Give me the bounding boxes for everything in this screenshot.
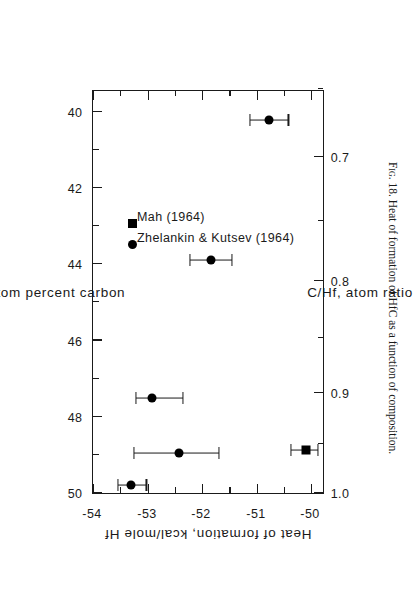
x-tick-label-44: 44 [68, 258, 83, 272]
circle-marker-icon [147, 393, 156, 402]
error-bar-cap [133, 447, 134, 459]
legend-label: Mah (1964) [137, 210, 205, 224]
chart-canvas: Atom percent carbon C/Hf, atom ratio Hea… [48, 52, 368, 552]
legend-label: Zhelankin & Kutsev (1964) [137, 231, 294, 245]
figure-number: Fig. 18. [387, 162, 399, 197]
data-point-zhelankin-kutsev [147, 393, 157, 403]
x-tick-label-46: 46 [68, 335, 83, 349]
error-bar-cap [135, 392, 136, 404]
y-tick-label--53: -53 [137, 507, 156, 521]
axis-tick-bot-minor [318, 88, 324, 89]
error-bar [136, 397, 183, 398]
data-point-mah [301, 445, 311, 455]
x-tick-label-40: 40 [68, 106, 83, 120]
x-tick-label-42: 42 [68, 182, 83, 196]
error-bar-cap [290, 444, 291, 456]
error-bar-cap [190, 254, 191, 266]
data-point-zhelankin-kutsev [206, 255, 216, 265]
y-tick-label--54: -54 [82, 507, 101, 521]
error-bar-cap [218, 447, 219, 459]
circle-marker-icon [207, 255, 216, 264]
x2-tick-label-1.0: 1.0 [331, 487, 350, 501]
data-point-zhelankin-kutsev [264, 115, 274, 125]
y-tick-label--52: -52 [192, 507, 211, 521]
figure-caption-text: Heat of formation of HfC as a function o… [387, 200, 399, 454]
x-tick-label-50: 50 [68, 487, 83, 501]
circle-marker-icon [174, 448, 183, 457]
error-bar-cap [317, 444, 318, 456]
circle-marker-icon [264, 116, 273, 125]
data-point-zhelankin-kutsev [174, 448, 184, 458]
error-bar-cap [117, 479, 118, 491]
figure-caption: Fig. 18. Heat of formation of HfC as a f… [387, 88, 399, 528]
square-marker-icon [301, 446, 310, 455]
x2-tick-label-0.8: 0.8 [331, 275, 350, 289]
x2-tick-label-0.9: 0.9 [331, 387, 350, 401]
data-series-layer [93, 91, 323, 493]
error-bar-cap [183, 392, 184, 404]
error-bar-cap [232, 254, 233, 266]
error-bar-cap [288, 114, 289, 126]
x2-tick-label-0.7: 0.7 [331, 151, 350, 165]
x-tick-label-48: 48 [68, 411, 83, 425]
data-point-zhelankin-kutsev [126, 480, 136, 490]
error-bar-cap [146, 479, 147, 491]
circle-marker-icon [127, 480, 136, 489]
error-bar-cap [250, 114, 251, 126]
y-axis-title-heat-formation: Heat of formation, kcal/mole Hf [104, 527, 311, 542]
y-tick-label--50: -50 [301, 507, 320, 521]
plot-area: Zhelankin & Kutsev (1964)Mah (1964) [92, 90, 324, 494]
figure-page: Atom percent carbon C/Hf, atom ratio Hea… [0, 0, 416, 605]
y-tick-label--51: -51 [246, 507, 265, 521]
